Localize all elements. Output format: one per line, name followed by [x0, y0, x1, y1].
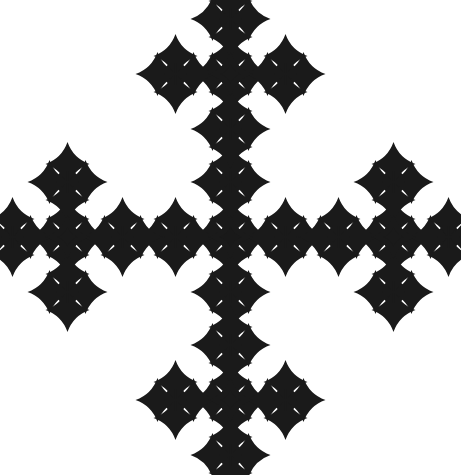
- recursive-cross-fractal-image: [0, 0, 461, 475]
- fractal-stage: [0, 0, 461, 475]
